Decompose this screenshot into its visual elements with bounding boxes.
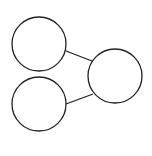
diagram-canvas bbox=[0, 0, 152, 156]
background bbox=[0, 0, 152, 156]
